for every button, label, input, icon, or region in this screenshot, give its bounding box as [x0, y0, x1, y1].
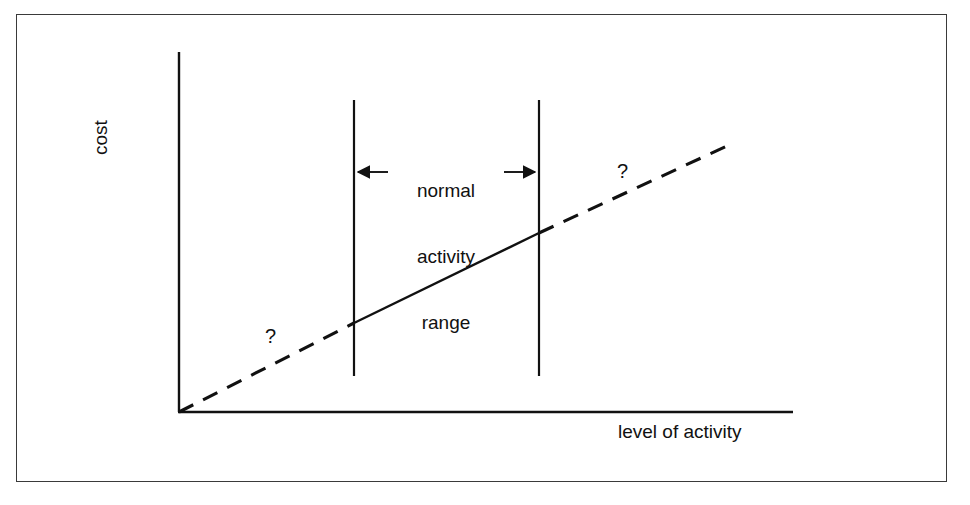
figure-canvas: cost level of activity normal activity r… — [0, 0, 970, 505]
normal-activity-range-label-line-1: normal — [392, 180, 500, 202]
x-axis-label: level of activity — [618, 421, 742, 443]
question-mark-upper-extrapolation: ? — [617, 160, 628, 183]
normal-activity-range-label: normal activity range — [392, 136, 500, 378]
y-axis-label: cost — [90, 121, 112, 155]
question-mark-lower-extrapolation: ? — [265, 325, 276, 348]
normal-activity-range-label-line-2: activity — [392, 246, 500, 268]
normal-activity-range-label-line-3: range — [392, 312, 500, 334]
